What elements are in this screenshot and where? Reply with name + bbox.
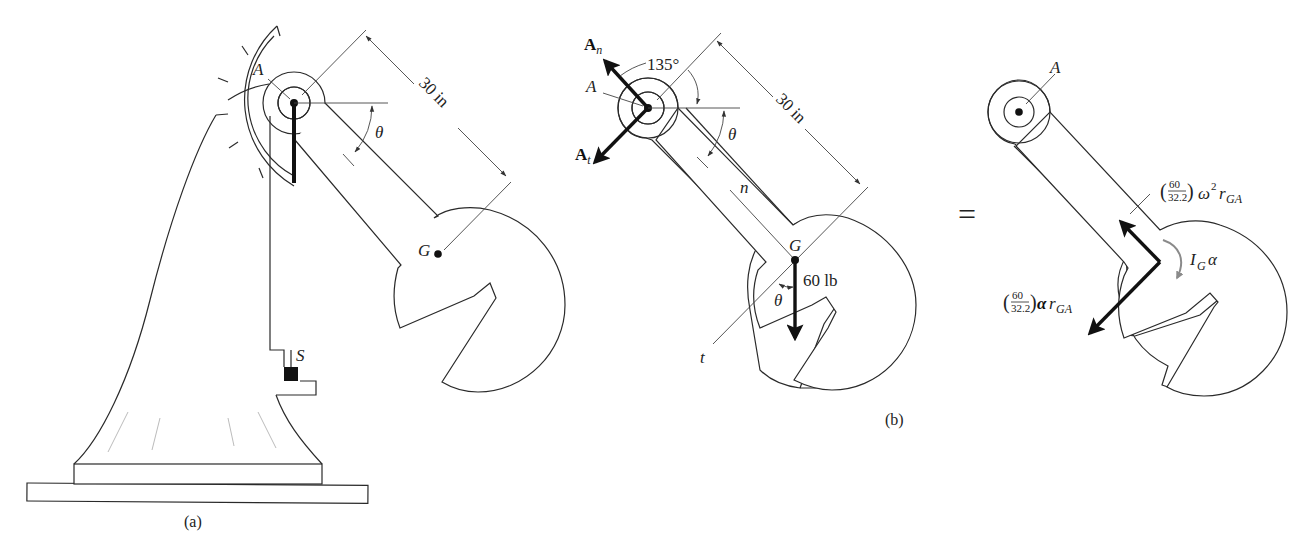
- svg-text:): ): [1030, 291, 1037, 314]
- label-theta-a: θ: [375, 123, 383, 142]
- pendulum-arm-a: [263, 72, 565, 392]
- pendulum-kinetics-diagram: S A: [0, 0, 1307, 546]
- label-n: n: [740, 178, 749, 197]
- shading-strokes: [108, 412, 276, 452]
- label-s: S: [296, 346, 305, 365]
- svg-text:(: (: [1160, 180, 1167, 203]
- panel-a: S A: [27, 26, 565, 531]
- label-a-b: A: [585, 77, 597, 96]
- label-a: A: [252, 60, 264, 79]
- label-tangential-inertia: ( 60 32.2 ) α r GA: [1003, 289, 1073, 316]
- label-weight: 60 lb: [803, 271, 837, 290]
- svg-text:(: (: [1003, 291, 1010, 314]
- stand-body-right: [276, 395, 322, 464]
- equals-sign: =: [958, 196, 976, 232]
- base-plate: [27, 483, 368, 503]
- base-block: [74, 464, 322, 484]
- caption-a: (a): [184, 513, 202, 531]
- g-dot-a: [434, 250, 442, 258]
- svg-text:α: α: [1208, 250, 1218, 269]
- svg-text:r: r: [1049, 294, 1056, 313]
- label-at: At: [575, 145, 591, 167]
- svg-text:60: 60: [1169, 178, 1181, 190]
- label-g-a: G: [418, 241, 430, 260]
- caption-b: (b): [885, 411, 904, 429]
- svg-text:32.2: 32.2: [1168, 191, 1187, 203]
- svg-text:GA: GA: [1056, 302, 1073, 316]
- svg-text:r: r: [1219, 184, 1226, 203]
- svg-text:): ): [1187, 180, 1194, 203]
- label-an: An: [584, 35, 602, 57]
- dimension-line-a: [366, 36, 414, 84]
- label-normal-inertia: ( 60 32.2 ) ω 2 r GA: [1160, 178, 1243, 206]
- label-a-c: A: [1049, 58, 1061, 77]
- label-135: 135°: [647, 55, 679, 74]
- svg-text:GA: GA: [1226, 192, 1243, 206]
- dimension-label-b: 30 in: [772, 89, 810, 127]
- label-g-b: G: [789, 236, 801, 255]
- stand-body: [74, 115, 216, 464]
- disk-b: [656, 108, 916, 390]
- svg-text:2: 2: [1211, 180, 1217, 192]
- stop-ledge: [276, 381, 316, 395]
- panel-c: A ( 60 32.2 ) ω 2 r GA I G α ( 60: [988, 58, 1287, 396]
- label-theta-g: θ: [774, 291, 782, 310]
- arc-scale: [216, 26, 294, 186]
- label-t: t: [700, 348, 706, 367]
- svg-text:60: 60: [1012, 289, 1024, 301]
- svg-text:G: G: [1197, 259, 1206, 273]
- label-theta-b: θ: [728, 125, 736, 144]
- svg-text:ω: ω: [1198, 184, 1210, 203]
- panel-b: An At A 135° θ 30 in n t G 60 lb θ (b): [575, 33, 916, 429]
- spring-stop-block: [284, 367, 298, 381]
- svg-text:α: α: [1037, 294, 1047, 313]
- svg-text:32.2: 32.2: [1011, 302, 1030, 314]
- dimension-label-a: 30 in: [415, 73, 453, 111]
- stop-rod: [270, 116, 291, 367]
